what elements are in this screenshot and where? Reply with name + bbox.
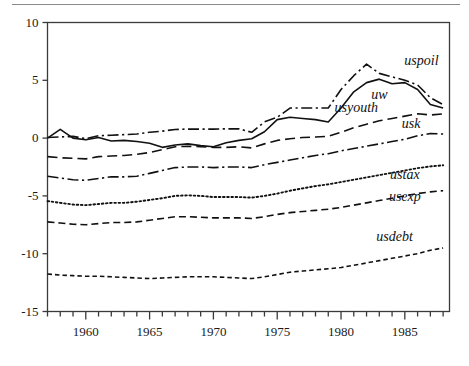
y-tick-label: 5 — [0, 72, 39, 88]
series-label-uspoil: uspoil — [404, 53, 438, 69]
x-tick-label: 1985 — [375, 324, 435, 340]
y-tick-label: -10 — [0, 246, 39, 262]
series-label-usk: usk — [402, 116, 421, 132]
chart-figure: 1050-5-10-15 196019651970197519801985 us… — [0, 0, 469, 366]
series-line-usyouth — [48, 114, 444, 159]
x-tick-label: 1960 — [56, 324, 116, 340]
series-label-ustax: ustax — [390, 167, 420, 183]
x-tick-label: 1970 — [183, 324, 243, 340]
y-tick-label: 10 — [0, 15, 39, 31]
y-tick-label: 0 — [0, 130, 39, 146]
series-line-usdebt — [48, 248, 444, 279]
y-tick-label: -5 — [0, 188, 39, 204]
x-tick-label: 1975 — [247, 324, 307, 340]
series-label-usdebt: usdebt — [376, 229, 413, 245]
axes-group — [43, 23, 450, 320]
x-tick-label: 1965 — [120, 324, 180, 340]
y-tick-label: -15 — [0, 304, 39, 320]
x-tick-label: 1980 — [311, 324, 371, 340]
series-label-usexp: usexp — [389, 189, 421, 205]
series-line-usexp — [48, 191, 444, 225]
series-label-usyouth: usyouth — [335, 100, 379, 116]
series-line-ustax — [48, 165, 444, 205]
